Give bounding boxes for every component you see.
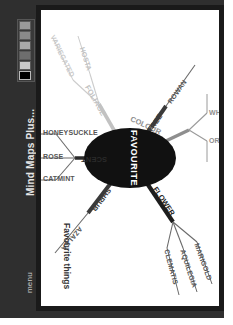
mindmap-canvas[interactable]: FAVOURITE COLOUR FLOWER SHRUB SCENT FOLI… bbox=[41, 10, 219, 306]
branch-label-catmint[interactable]: CATMINT bbox=[43, 175, 75, 182]
color-palette[interactable] bbox=[17, 19, 35, 82]
branch-line-white bbox=[189, 113, 207, 130]
palette-swatch[interactable] bbox=[19, 61, 31, 70]
palette-swatch[interactable] bbox=[19, 21, 31, 30]
palette-swatch[interactable] bbox=[19, 31, 31, 40]
palette-swatch-selected[interactable] bbox=[19, 71, 31, 80]
branch-label-honeysuckle[interactable]: HONEYSUCKLE bbox=[43, 129, 98, 136]
app-title: Mind Maps Plus... bbox=[25, 109, 36, 196]
branch-line-orange bbox=[189, 130, 207, 141]
branch-label-scent[interactable]: SCENT bbox=[81, 155, 107, 164]
palette-swatch[interactable] bbox=[19, 41, 31, 50]
menu-button[interactable]: menu bbox=[25, 272, 34, 293]
branch-label-orange[interactable]: ORANGE bbox=[209, 137, 219, 144]
application-frame: Mind Maps Plus... menu bbox=[0, 0, 233, 325]
branch-label-rose[interactable]: ROSE bbox=[43, 153, 63, 160]
branch-label-white[interactable]: WHITE bbox=[209, 109, 219, 116]
palette-swatch[interactable] bbox=[19, 51, 31, 60]
center-node-label: FAVOURITE bbox=[129, 128, 139, 188]
artboard-caption: Favourite things bbox=[62, 223, 72, 289]
mindmap-stage: FAVOURITE COLOUR FLOWER SHRUB SCENT FOLI… bbox=[41, 10, 219, 306]
branch-line-clematis bbox=[167, 222, 173, 248]
